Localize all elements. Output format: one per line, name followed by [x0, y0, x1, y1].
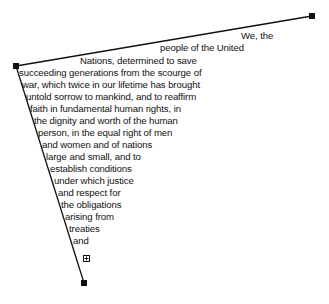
text-line: people of the United [160, 42, 244, 53]
overflow-plus-icon[interactable] [84, 256, 90, 262]
top-right-handle[interactable] [309, 13, 315, 19]
text-line: war, which twice in our lifetime has bro… [22, 79, 200, 90]
text-line: succeeding generations from the scourge … [19, 67, 201, 78]
text-line: the dignity and worth of the human [34, 115, 178, 126]
text-line: treaties [69, 223, 100, 234]
text-line: arising from [65, 211, 114, 222]
text-line: the obligations [61, 199, 121, 210]
text-line: person, in the equal right of men [38, 127, 172, 138]
text-line: Nations, determined to save [80, 55, 197, 66]
bottom-handle[interactable] [81, 280, 87, 286]
text-line: We, the [241, 30, 273, 41]
text-line: and respect for [58, 187, 121, 198]
text-line: establish conditions [50, 163, 132, 174]
text-line: and [73, 235, 89, 246]
text-line: and women and of nations [42, 139, 152, 150]
text-line: untold sorrow to mankind, and to reaffir… [26, 91, 196, 102]
drawing-canvas[interactable]: We, the people of the United Nations, de… [0, 0, 329, 304]
text-line: faith in fundamental human rights, in [30, 103, 181, 114]
text-line: under which justice [54, 175, 134, 186]
text-line: large and small, and to [46, 151, 141, 162]
